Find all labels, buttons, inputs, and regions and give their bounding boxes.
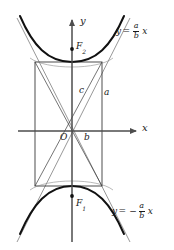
rectangle-diagonals bbox=[35, 62, 102, 186]
asymptote-positive-equation: y = a b x bbox=[116, 22, 147, 40]
segment-label-a: a bbox=[104, 88, 109, 97]
focus-upper-subscript: 2 bbox=[82, 48, 86, 55]
segment-label-b: b bbox=[84, 133, 90, 142]
eq-neg-equals: = bbox=[119, 207, 127, 216]
focus-upper-dot bbox=[70, 47, 74, 51]
eq-neg-numerator: a bbox=[139, 202, 145, 211]
eq-pos-variable: x bbox=[142, 27, 147, 36]
hyperbola-figure: y x O b a c F2 F1 y = a b x y = − a b x bbox=[0, 0, 174, 250]
focus-upper-label: F2 bbox=[76, 42, 86, 53]
origin-label: O bbox=[60, 133, 67, 142]
focus-lower-dot bbox=[70, 194, 74, 198]
eq-neg-denominator: b bbox=[139, 211, 145, 221]
x-axis-label: x bbox=[142, 123, 148, 133]
eq-pos-equals: = bbox=[123, 27, 131, 36]
eq-neg-sign: − bbox=[129, 207, 137, 216]
eq-pos-numerator: a bbox=[133, 22, 139, 31]
segment-label-c: c bbox=[79, 86, 84, 95]
eq-pos-y: y bbox=[116, 27, 121, 36]
eq-pos-denominator: b bbox=[133, 31, 139, 41]
focus-lower-label: F1 bbox=[76, 199, 86, 210]
eq-neg-fraction: a b bbox=[139, 202, 145, 220]
y-axis-label: y bbox=[80, 16, 86, 26]
eq-neg-y: y bbox=[112, 207, 117, 216]
eq-neg-variable: x bbox=[148, 207, 153, 216]
asymptote-negative-equation: y = − a b x bbox=[112, 202, 153, 220]
focus-lower-subscript: 1 bbox=[82, 205, 86, 212]
eq-pos-fraction: a b bbox=[133, 22, 139, 40]
